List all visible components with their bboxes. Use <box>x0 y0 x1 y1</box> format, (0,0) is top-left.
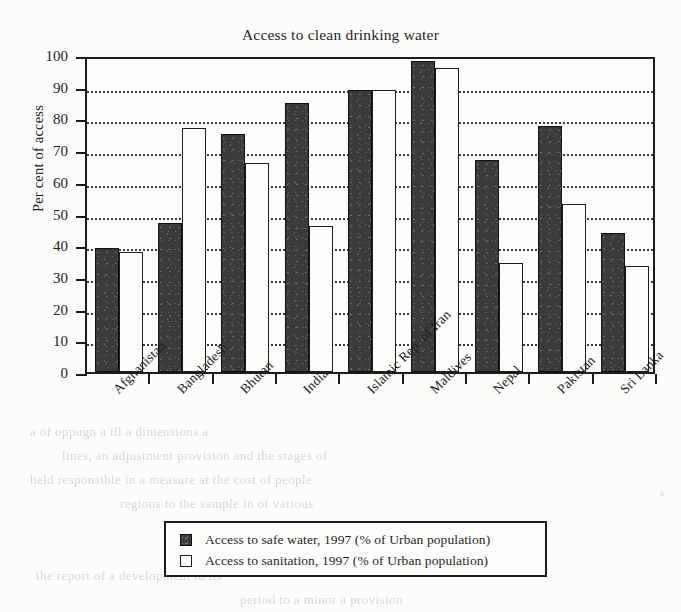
bar <box>221 134 245 372</box>
x-axis-tick <box>528 374 530 384</box>
legend-item: Access to sanitation, 1997 (% of Urban p… <box>176 550 535 571</box>
y-axis-tick-label: 60 <box>8 175 68 192</box>
y-axis-tick-label: 30 <box>8 270 68 287</box>
bar <box>562 204 586 372</box>
y-axis-tick-label: 0 <box>8 365 68 382</box>
y-axis-tick-label: 20 <box>8 302 68 319</box>
bar <box>348 90 372 372</box>
bar <box>499 263 523 372</box>
chart-title: Access to clean drinking water <box>0 26 681 44</box>
bar <box>372 90 396 372</box>
chart-legend: Access to safe water, 1997 (% of Urban p… <box>164 521 547 577</box>
bar <box>119 252 143 372</box>
x-axis-tick <box>592 374 594 384</box>
bar <box>475 160 499 372</box>
bar <box>245 163 269 372</box>
scanned-page-background: a of oppugn a ill a dimensions alines, a… <box>0 0 681 612</box>
light-swatch-icon <box>180 555 192 567</box>
bar <box>285 103 309 372</box>
plot-area <box>85 57 655 374</box>
x-axis-tick <box>655 374 657 384</box>
y-axis-tick-label: 10 <box>8 333 68 350</box>
x-axis-tick <box>212 374 214 384</box>
y-axis-tick <box>76 374 87 376</box>
legend-item-label: Access to safe water, 1997 (% of Urban p… <box>205 532 490 548</box>
bar <box>538 126 562 372</box>
bar <box>601 233 625 372</box>
x-axis-tick <box>275 374 277 384</box>
y-axis-tick-label: 80 <box>8 111 68 128</box>
y-axis-tick-label: 40 <box>8 238 68 255</box>
y-axis-tick-label: 100 <box>8 48 68 65</box>
bar <box>182 128 206 372</box>
y-axis-tick-label: 70 <box>8 143 68 160</box>
x-axis-tick <box>402 374 404 384</box>
dark-swatch-icon <box>180 534 192 546</box>
x-axis-tick <box>338 374 340 384</box>
bar <box>95 248 119 372</box>
x-axis-tick <box>148 374 150 384</box>
legend-item-label: Access to sanitation, 1997 (% of Urban p… <box>205 553 488 569</box>
bar-chart: Access to clean drinking water Per cent … <box>0 0 681 612</box>
y-axis-tick-label: 50 <box>8 207 68 224</box>
y-axis-tick-label: 90 <box>8 80 68 97</box>
bar <box>309 226 333 372</box>
legend-item: Access to safe water, 1997 (% of Urban p… <box>176 529 535 550</box>
x-axis-tick <box>465 374 467 384</box>
